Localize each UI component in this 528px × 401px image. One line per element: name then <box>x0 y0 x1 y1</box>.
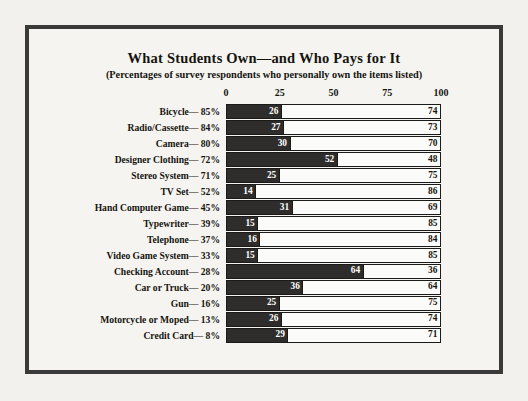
category-label: Telephone— 37% <box>147 232 220 247</box>
table-row: Telephone— 37%1684 <box>29 232 499 247</box>
category-label: Hand Computer Game— 45% <box>95 200 220 215</box>
bar-segment-dark: 52 <box>226 152 338 167</box>
bar-value-dark: 26 <box>269 314 281 323</box>
table-row: TV Set— 52%1486 <box>29 184 499 199</box>
bar-segment-light: 74 <box>282 104 441 119</box>
bar-value-dark: 52 <box>325 155 337 164</box>
chart-plot-area: 0255075100 Bicycle— 85%2674Radio/Cassett… <box>29 29 499 370</box>
bar-segment-dark: 64 <box>226 264 364 279</box>
bar-segment-dark: 30 <box>226 136 291 151</box>
bar-value-light: 85 <box>428 219 440 228</box>
category-label: Typewriter— 39% <box>143 216 220 231</box>
bar-value-dark: 29 <box>275 330 287 339</box>
bar-segment-light: 74 <box>282 312 441 327</box>
bar-value-dark: 30 <box>278 139 290 148</box>
x-tick-0: 0 <box>224 87 229 98</box>
bar-value-light: 74 <box>428 314 440 323</box>
category-label: Checking Account— 28% <box>114 264 220 279</box>
bar-value-dark: 36 <box>291 282 303 291</box>
bar-segment-light: 69 <box>293 200 441 215</box>
bar-value-dark: 15 <box>245 219 257 228</box>
category-label: Car or Truck— 20% <box>135 280 220 295</box>
bar-segment-light: 85 <box>258 248 441 263</box>
bar-value-dark: 26 <box>269 107 281 116</box>
bar-segment-light: 84 <box>260 232 441 247</box>
category-label: Gun— 16% <box>171 296 220 311</box>
table-row: Radio/Cassette— 84%2773 <box>29 120 499 135</box>
bar-segment-dark: 27 <box>226 120 284 135</box>
category-label: Video Game System— 33% <box>107 248 220 263</box>
bar-segment-dark: 15 <box>226 216 258 231</box>
category-label: Radio/Cassette— 84% <box>128 120 220 135</box>
table-row: Video Game System— 33%1585 <box>29 248 499 263</box>
bar-value-dark: 31 <box>280 203 292 212</box>
bar-segment-light: 85 <box>258 216 441 231</box>
table-row: Typewriter— 39%1585 <box>29 216 499 231</box>
bar-segment-dark: 26 <box>226 312 282 327</box>
bar-value-light: 64 <box>428 282 440 291</box>
table-row: Hand Computer Game— 45%3169 <box>29 200 499 215</box>
bar-segment-dark: 25 <box>226 168 280 183</box>
table-row: Motorcycle or Moped— 13%2674 <box>29 312 499 327</box>
chart-frame: What Students Own—and Who Pays for It (P… <box>25 25 503 374</box>
bar-segment-light: 75 <box>280 168 441 183</box>
bar-segment-dark: 16 <box>226 232 260 247</box>
table-row: Stereo System— 71%2575 <box>29 168 499 183</box>
bar-segment-light: 73 <box>284 120 441 135</box>
bar-value-light: 75 <box>428 171 440 180</box>
category-label: Motorcycle or Moped— 13% <box>100 312 220 327</box>
bar-value-dark: 25 <box>267 171 279 180</box>
bar-segment-dark: 29 <box>226 328 288 343</box>
table-row: Camera— 80%3070 <box>29 136 499 151</box>
bar-value-light: 85 <box>428 251 440 260</box>
category-label: Designer Clothing— 72% <box>115 152 220 167</box>
table-row: Gun— 16%2575 <box>29 296 499 311</box>
bar-segment-light: 36 <box>364 264 441 279</box>
bar-segment-light: 75 <box>280 296 441 311</box>
category-label: Credit Card— 8% <box>143 328 220 343</box>
category-label: TV Set— 52% <box>160 184 220 199</box>
bar-segment-light: 71 <box>288 328 441 343</box>
x-tick-75: 75 <box>382 87 392 98</box>
bar-segment-light: 86 <box>256 184 441 199</box>
category-label: Bicycle— 85% <box>160 104 220 119</box>
bar-segment-dark: 14 <box>226 184 256 199</box>
table-row: Checking Account— 28%6436 <box>29 264 499 279</box>
category-label: Camera— 80% <box>156 136 220 151</box>
table-row: Bicycle— 85%2674 <box>29 104 499 119</box>
bar-value-light: 75 <box>428 298 440 307</box>
bar-value-dark: 16 <box>248 235 260 244</box>
x-tick-25: 25 <box>275 87 285 98</box>
bar-segment-dark: 25 <box>226 296 280 311</box>
table-row: Credit Card— 8%2971 <box>29 328 499 343</box>
bar-segment-dark: 15 <box>226 248 258 263</box>
table-row: Designer Clothing— 72%5248 <box>29 152 499 167</box>
bar-value-light: 84 <box>428 235 440 244</box>
table-row: Car or Truck— 20%3664 <box>29 280 499 295</box>
category-label: Stereo System— 71% <box>131 168 220 183</box>
bar-segment-dark: 36 <box>226 280 303 295</box>
bar-segment-light: 70 <box>291 136 442 151</box>
bar-segment-light: 48 <box>338 152 441 167</box>
bar-value-dark: 15 <box>245 251 257 260</box>
x-tick-50: 50 <box>329 87 339 98</box>
bar-value-dark: 64 <box>351 266 363 275</box>
bar-value-dark: 27 <box>271 123 283 132</box>
bar-value-dark: 14 <box>243 187 255 196</box>
bar-segment-dark: 26 <box>226 104 282 119</box>
bar-value-light: 74 <box>428 107 440 116</box>
bar-segment-light: 64 <box>303 280 441 295</box>
bar-value-light: 71 <box>428 330 440 339</box>
bar-value-light: 70 <box>428 139 440 148</box>
bar-value-dark: 25 <box>267 298 279 307</box>
bar-value-light: 48 <box>428 155 440 164</box>
bar-value-light: 86 <box>428 187 440 196</box>
bar-value-light: 69 <box>428 203 440 212</box>
bar-value-light: 36 <box>428 266 440 275</box>
bar-segment-dark: 31 <box>226 200 293 215</box>
x-tick-100: 100 <box>434 87 449 98</box>
bar-value-light: 73 <box>428 123 440 132</box>
